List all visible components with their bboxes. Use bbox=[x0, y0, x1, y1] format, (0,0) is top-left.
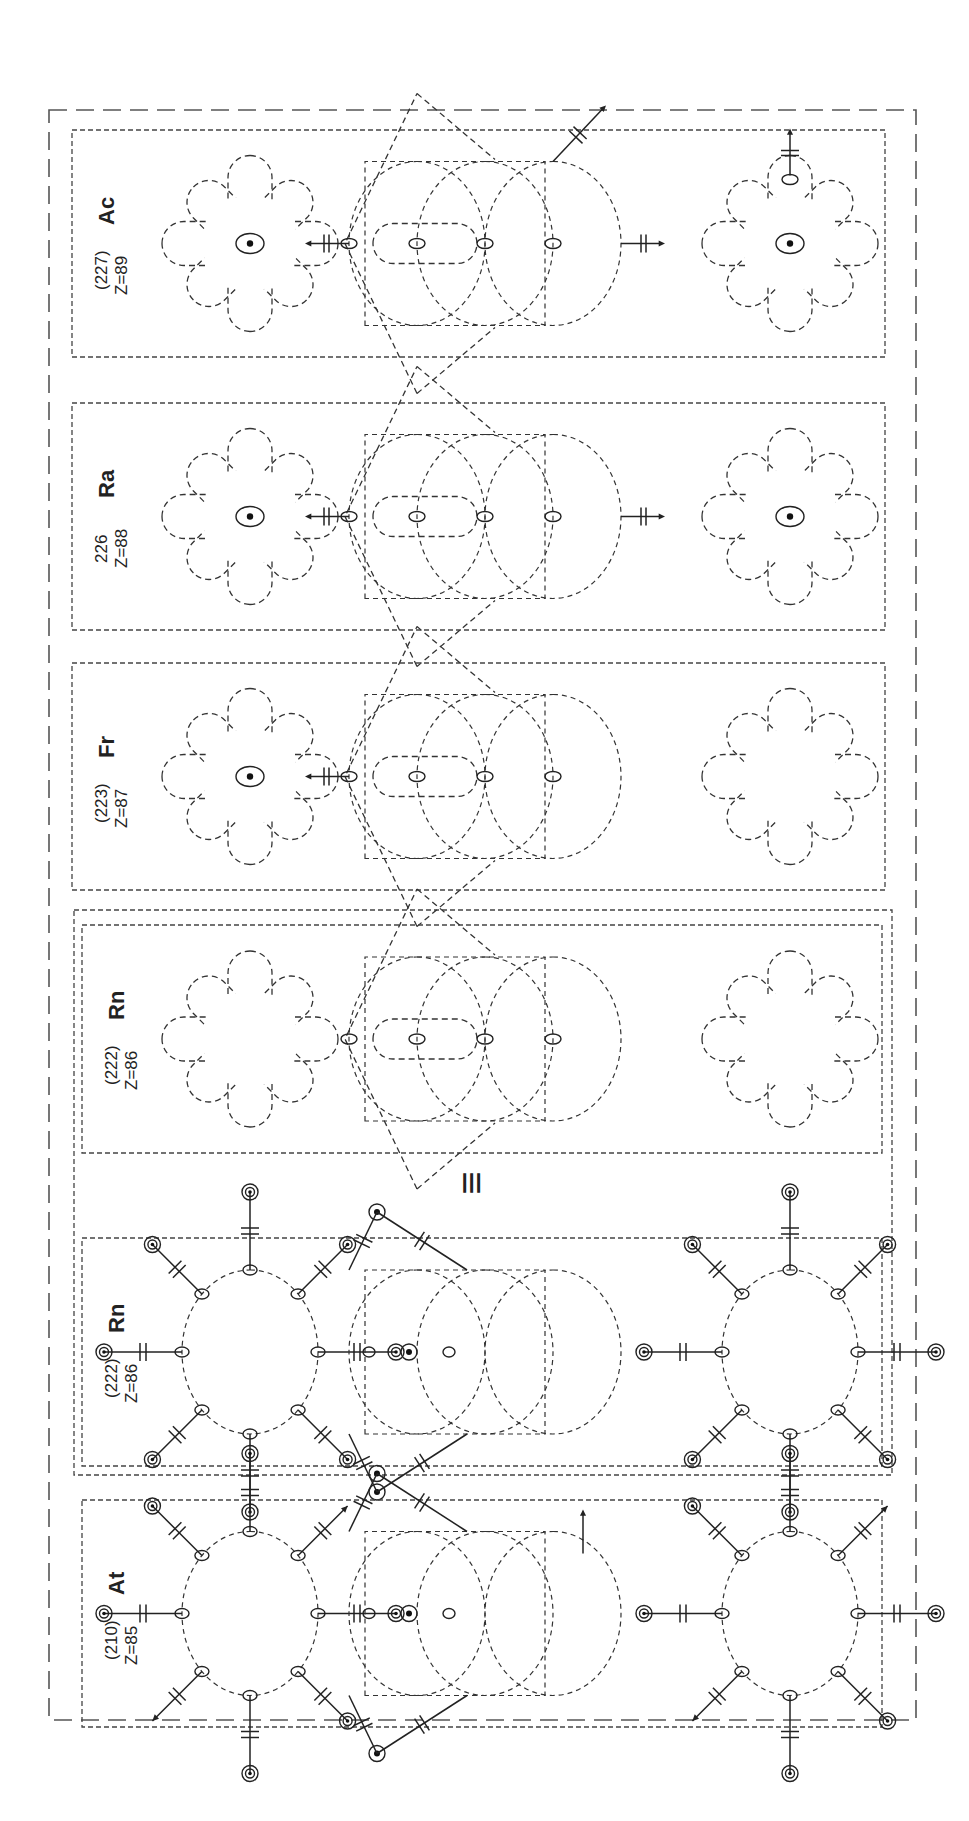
atomic-number: Z=86 bbox=[122, 1364, 141, 1403]
bond-star bbox=[636, 1446, 944, 1782]
panel-figures bbox=[162, 94, 878, 394]
element-symbol: Rn bbox=[104, 1304, 129, 1333]
stacked-spheres bbox=[305, 367, 665, 667]
nucleus-flower bbox=[702, 689, 878, 865]
element-symbol: Fr bbox=[94, 736, 119, 758]
mass-number: (223) bbox=[92, 783, 111, 823]
bottom-view bbox=[702, 429, 878, 605]
panel-rn-orbital: Rn(222)Z=86 bbox=[82, 889, 882, 1189]
panel-ra: Ra226Z=88 bbox=[72, 367, 885, 667]
nucleus-flower bbox=[702, 951, 878, 1127]
mass-number: (222) bbox=[102, 1358, 121, 1398]
bottom-view bbox=[702, 129, 878, 332]
panel-figures bbox=[96, 1446, 944, 1782]
element-symbol: Ac bbox=[94, 197, 119, 225]
element-symbol: At bbox=[104, 1571, 129, 1595]
mass-number: (227) bbox=[92, 250, 111, 290]
element-symbol: Rn bbox=[104, 991, 129, 1020]
panel-figures bbox=[162, 889, 878, 1189]
diagram-svg: ≡ Ac(227)Z=89Ra226Z=88Fr(223)Z=87Rn(222)… bbox=[0, 0, 969, 1821]
atomic-number: Z=88 bbox=[112, 529, 131, 568]
panel-ac: Ac(227)Z=89 bbox=[72, 94, 885, 394]
mass-number: (210) bbox=[102, 1620, 121, 1660]
stacked-spheres bbox=[341, 889, 621, 1189]
panel-border bbox=[82, 1500, 882, 1727]
panel-at: At(210)Z=85 bbox=[82, 1446, 944, 1782]
nucleus-flower bbox=[702, 429, 878, 605]
stacked-spheres bbox=[305, 627, 621, 927]
bottom-view bbox=[702, 689, 878, 865]
panel-rn-bond: Rn(222)Z=86 bbox=[82, 1184, 944, 1520]
bottom-view bbox=[636, 1446, 944, 1782]
atomic-number: Z=86 bbox=[122, 1051, 141, 1090]
stacked-spheres bbox=[305, 94, 665, 394]
side-view bbox=[305, 367, 665, 667]
panel-fr: Fr(223)Z=87 bbox=[72, 627, 885, 927]
mass-number: 226 bbox=[92, 535, 111, 563]
panel-figures bbox=[162, 627, 878, 927]
nucleus-flower bbox=[702, 129, 878, 332]
outer-border bbox=[49, 110, 916, 1720]
equivalence-symbol-text: ≡ bbox=[449, 1171, 493, 1194]
side-view bbox=[341, 889, 621, 1189]
side-view bbox=[305, 627, 621, 927]
diagram-canvas: ≡ Ac(227)Z=89Ra226Z=88Fr(223)Z=87Rn(222)… bbox=[0, 0, 969, 1821]
bottom-view bbox=[702, 951, 878, 1127]
atomic-number: Z=87 bbox=[112, 789, 131, 828]
panel-figures bbox=[96, 1184, 944, 1520]
nucleus-flower bbox=[162, 951, 338, 1127]
atomic-number: Z=85 bbox=[122, 1626, 141, 1665]
panels-container: Ac(227)Z=89Ra226Z=88Fr(223)Z=87Rn(222)Z=… bbox=[72, 94, 944, 1782]
atomic-number: Z=89 bbox=[112, 256, 131, 295]
mass-number: (222) bbox=[102, 1045, 121, 1085]
panel-figures bbox=[162, 367, 878, 667]
element-symbol: Ra bbox=[94, 469, 119, 498]
panel-border bbox=[82, 1238, 882, 1466]
top-view bbox=[162, 951, 338, 1127]
equivalence-symbol: ≡ bbox=[449, 1171, 493, 1194]
side-view bbox=[305, 94, 665, 394]
